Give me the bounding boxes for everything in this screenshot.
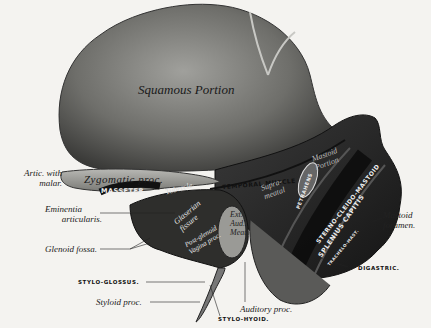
stylo-hyoid-label: STYLO-HYOID. — [218, 316, 269, 322]
zygomatic-process-label: Zygomatic proc. — [84, 173, 163, 185]
ext-aud-meat-label: Ext. Aud. Meat. — [230, 210, 248, 237]
digastric-label: DIGASTRIC. — [358, 265, 400, 271]
styloid-process-label: Styloid proc. — [96, 297, 142, 307]
masseter-label: MASSETER. — [101, 187, 147, 195]
squamous-portion-label: Squamous Portion — [138, 82, 234, 98]
stylo-glossus-label: STYLO-GLOSSUS. — [78, 279, 139, 285]
anatomy-figure: Squamous Portion Zygomatic proc. Tubercl… — [0, 0, 431, 328]
artic-malar-label: Artic. with malar. — [2, 168, 62, 188]
auditory-process-label: Auditory proc. — [240, 304, 292, 314]
temporal-bone-illustration — [0, 0, 431, 328]
glenoid-fossa-label: Glenoid fossa. — [45, 244, 97, 254]
styloid-process-shape — [196, 268, 225, 322]
eminentia-articularis-label: Eminentia articularis. — [2, 204, 102, 224]
mastoid-foramen-label: Mastoid foramen. — [383, 210, 415, 230]
